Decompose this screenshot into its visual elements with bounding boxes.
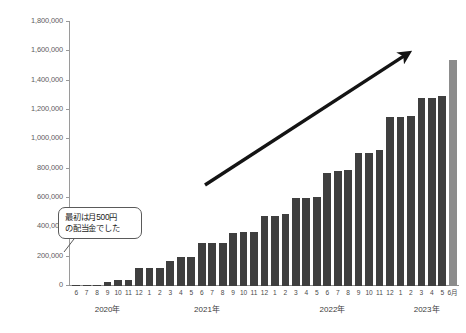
bar (104, 282, 112, 286)
callout-line-1: 最初は月500円 (65, 212, 136, 223)
bar (198, 243, 206, 286)
bar (418, 98, 426, 286)
x-axis-year-label: 2021年 (177, 305, 237, 315)
bar (114, 280, 122, 286)
y-axis-tick-label: 1,800,000 (0, 17, 63, 25)
bar (313, 197, 321, 286)
plot-area (70, 21, 459, 286)
bar (166, 261, 174, 286)
y-axis-tick-label: 400,000 (0, 222, 63, 230)
bar (177, 257, 185, 286)
bar (72, 285, 80, 286)
bar (355, 153, 363, 286)
callout-tail-icon (63, 239, 75, 253)
bar (407, 116, 415, 286)
bar (83, 285, 91, 286)
bar (302, 198, 310, 286)
bar (219, 243, 227, 286)
y-axis-tick-label: 600,000 (0, 193, 63, 201)
y-axis-tick-mark (66, 168, 69, 169)
y-axis-tick-mark (66, 21, 69, 22)
callout-box: 最初は月500円 の配当金でした (58, 207, 142, 239)
cropped-title-strip (150, 0, 400, 7)
bar (240, 232, 248, 286)
y-axis-tick-label: 1,000,000 (0, 134, 63, 142)
y-axis-tick-mark (66, 50, 69, 51)
x-axis-year-label: 2022年 (302, 305, 362, 315)
x-axis-year-label: 2023年 (397, 305, 457, 315)
bar (146, 268, 154, 286)
bar (386, 117, 394, 286)
x-axis-tick-label: 6月 (445, 289, 461, 297)
y-axis-tick-mark (66, 109, 69, 110)
x-axis-year-label: 2020年 (78, 305, 138, 315)
bar (376, 150, 384, 286)
bar (187, 257, 195, 286)
bar (334, 171, 342, 286)
bar (438, 96, 446, 286)
bar (428, 98, 436, 286)
bar (208, 243, 216, 286)
bar (156, 268, 164, 286)
bar (125, 280, 133, 286)
y-axis-tick-mark (66, 197, 69, 198)
y-axis-tick-mark (66, 256, 69, 257)
bar (365, 153, 373, 286)
y-axis-tick-label: 1,200,000 (0, 105, 63, 113)
bar (229, 233, 237, 286)
y-axis-tick-label: 200,000 (0, 252, 63, 260)
bar (93, 285, 101, 286)
bar (135, 268, 143, 286)
y-axis-tick-label: 1,600,000 (0, 46, 63, 54)
bar (292, 198, 300, 286)
bar (449, 60, 457, 286)
bar (250, 232, 258, 286)
y-axis-tick-label: 1,400,000 (0, 76, 63, 84)
bar (323, 173, 331, 286)
y-axis-tick-mark (66, 138, 69, 139)
bar (282, 214, 290, 286)
bar (271, 216, 279, 286)
y-axis-tick-label: 800,000 (0, 164, 63, 172)
callout-line-2: の配当金でした (65, 223, 136, 234)
bar (344, 170, 352, 286)
y-axis-tick-label: 0 (0, 281, 63, 289)
bar (397, 117, 405, 286)
y-axis-tick-mark (66, 80, 69, 81)
dividend-growth-bar-chart: 1,800,0001,600,0001,400,0001,200,0001,00… (0, 0, 466, 333)
bar (261, 216, 269, 286)
